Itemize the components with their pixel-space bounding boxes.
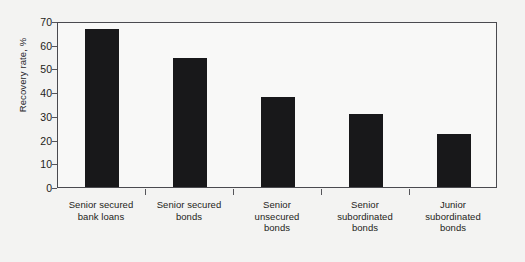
- x-axis-category-labels: Senior securedbank loansSenior securedbo…: [57, 199, 497, 251]
- bar: [85, 29, 119, 187]
- x-axis-category-label: Juniorsubordinatedbonds: [409, 199, 497, 234]
- y-axis-tick-label: 70: [30, 17, 52, 27]
- category-label-line: Senior: [321, 199, 409, 211]
- category-label-line: Senior: [233, 199, 321, 211]
- y-axis-tick-mark: [52, 188, 57, 189]
- y-axis-tick-label: 30: [30, 112, 52, 122]
- y-axis-tick-mark: [52, 46, 57, 47]
- category-label-line: Junior: [409, 199, 497, 211]
- x-axis-separator-tick: [233, 189, 234, 195]
- category-label-line: unsecured: [233, 211, 321, 223]
- y-axis-tick-label: 0: [30, 183, 52, 193]
- bar: [349, 114, 383, 188]
- x-axis-separator-tick: [321, 189, 322, 195]
- x-axis-separator-tick: [409, 189, 410, 195]
- x-axis-category-label: Seniorsubordinatedbonds: [321, 199, 409, 234]
- plot-frame: [57, 22, 497, 188]
- category-label-line: subordinated: [409, 211, 497, 223]
- category-label-line: bonds: [321, 222, 409, 234]
- x-axis-category-label: Senior securedbank loans: [57, 199, 145, 222]
- x-axis-category-label: Senior securedbonds: [145, 199, 233, 222]
- bar: [173, 58, 207, 187]
- category-label-line: Senior secured: [145, 199, 233, 211]
- y-axis-tick-mark: [52, 22, 57, 23]
- y-axis-tick-mark: [52, 141, 57, 142]
- y-axis-tick-mark: [52, 69, 57, 70]
- category-label-line: bonds: [233, 222, 321, 234]
- category-label-line: Senior secured: [57, 199, 145, 211]
- y-axis-tick-label: 50: [30, 64, 52, 74]
- x-axis-separator-tick: [145, 189, 146, 195]
- category-label-line: bank loans: [57, 211, 145, 223]
- bar: [437, 134, 471, 187]
- y-axis-tick-label: 60: [30, 41, 52, 51]
- y-axis-tick-labels: 706050403020100: [26, 0, 52, 262]
- y-axis-tick-mark: [52, 117, 57, 118]
- plot-area: [58, 23, 496, 187]
- y-axis-tick-mark: [52, 93, 57, 94]
- category-label-line: subordinated: [321, 211, 409, 223]
- y-axis-tick-label: 20: [30, 136, 52, 146]
- y-axis-tick-label: 40: [30, 88, 52, 98]
- category-label-line: bonds: [409, 222, 497, 234]
- y-axis-tick-label: 10: [30, 159, 52, 169]
- x-axis-category-label: Seniorunsecuredbonds: [233, 199, 321, 234]
- bar-chart-figure: Recovery rate, % 706050403020100 Senior …: [0, 0, 525, 262]
- bar: [261, 97, 295, 187]
- category-label-line: bonds: [145, 211, 233, 223]
- y-axis-tick-mark: [52, 164, 57, 165]
